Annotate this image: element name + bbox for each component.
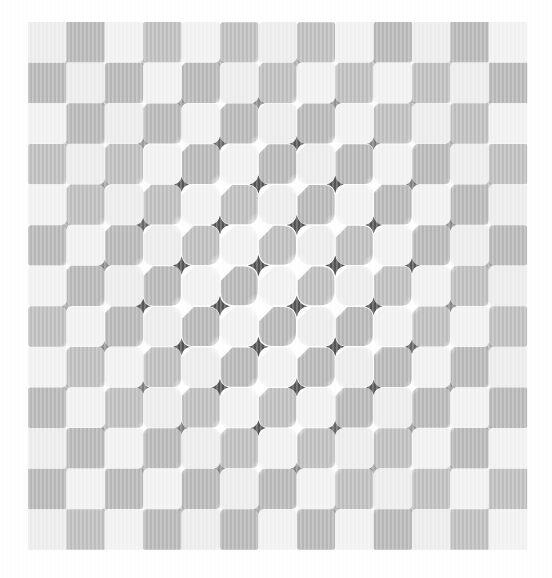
optical-illusion-figure: Bulge / Wave Optical Illusion Grey and w…	[0, 0, 552, 578]
checkerboard-illusion-canvas	[0, 0, 552, 578]
